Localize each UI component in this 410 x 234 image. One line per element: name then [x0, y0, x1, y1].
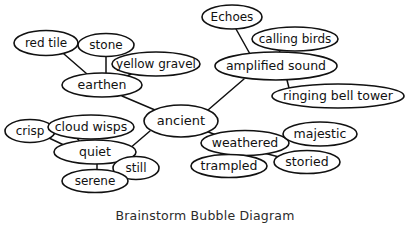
bubble-node-red-tile[interactable]: red tile	[14, 31, 78, 56]
bubble-diagram-canvas: red tilestoneyellow gravelearthenEchoesc…	[0, 0, 410, 234]
bubble-node-stone[interactable]: stone	[78, 34, 134, 57]
node-layer: red tilestoneyellow gravelearthenEchoesc…	[5, 5, 404, 193]
brainstorm-bubble-diagram: red tilestoneyellow gravelearthenEchoesc…	[0, 0, 410, 210]
bubble-node-calling-birds[interactable]: calling birds	[252, 27, 338, 51]
bubble-label-earthen: earthen	[78, 77, 127, 92]
bubble-node-weathered[interactable]: weathered	[201, 131, 289, 156]
bubble-node-yellow-gravel[interactable]: yellow gravel	[112, 52, 200, 76]
bubble-label-ancient: ancient	[157, 113, 205, 128]
bubble-node-trampled[interactable]: trampled	[191, 155, 267, 178]
bubble-label-weathered: weathered	[212, 135, 279, 150]
bubble-node-ringing-bell-tower[interactable]: ringing bell tower	[272, 84, 404, 108]
diagram-caption: Brainstorm Bubble Diagram	[0, 208, 410, 223]
bubble-label-trampled: trampled	[201, 158, 258, 173]
edge-ancient-to-earthen	[122, 96, 155, 110]
bubble-node-crisp[interactable]: crisp	[5, 120, 55, 143]
bubble-label-amplified-sound: amplified sound	[226, 58, 326, 73]
bubble-label-red-tile: red tile	[25, 36, 67, 50]
bubble-label-quiet: quiet	[79, 144, 111, 159]
bubble-node-cloud-wisps[interactable]: cloud wisps	[48, 115, 134, 139]
edge-earthen-to-red-tile	[64, 54, 87, 74]
bubble-label-echoes: Echoes	[211, 10, 254, 24]
bubble-node-amplified-sound[interactable]: amplified sound	[215, 52, 337, 80]
bubble-label-storied: storied	[285, 154, 328, 169]
bubble-node-serene[interactable]: serene	[62, 170, 128, 193]
bubble-node-earthen[interactable]: earthen	[62, 73, 142, 97]
bubble-label-crisp: crisp	[16, 124, 45, 138]
bubble-node-ancient[interactable]: ancient	[144, 105, 218, 137]
bubble-node-storied[interactable]: storied	[274, 151, 340, 174]
bubble-node-echoes[interactable]: Echoes	[202, 5, 262, 29]
bubble-label-majestic: majestic	[294, 126, 347, 141]
bubble-label-stone: stone	[89, 38, 122, 52]
bubble-node-majestic[interactable]: majestic	[283, 122, 357, 146]
bubble-label-calling-birds: calling birds	[259, 32, 332, 46]
bubble-label-still: still	[126, 161, 147, 175]
edge-ancient-to-amplified-sound	[208, 79, 244, 110]
bubble-label-yellow-gravel: yellow gravel	[116, 57, 196, 71]
edge-amplified-sound-to-ringing-bell-tower	[287, 80, 289, 88]
bubble-label-cloud-wisps: cloud wisps	[55, 119, 127, 134]
edge-amplified-sound-to-echoes	[236, 29, 250, 54]
bubble-label-ringing-bell-tower: ringing bell tower	[283, 88, 394, 103]
bubble-label-serene: serene	[75, 174, 116, 188]
